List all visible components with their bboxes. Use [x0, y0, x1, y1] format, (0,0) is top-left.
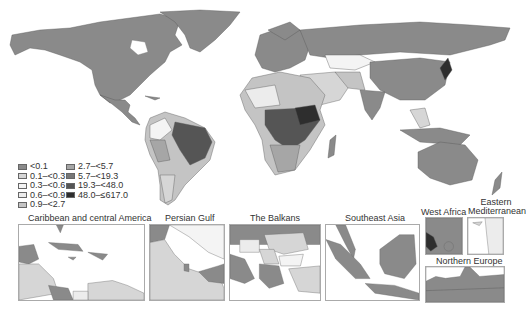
legend-swatch: [18, 173, 27, 179]
inset-title-caribbean: Caribbean and central America: [28, 213, 152, 223]
inset-persian-gulf: [149, 224, 225, 301]
inset-caribbean: [18, 224, 145, 301]
inset-title-northern-europe: Northern Europe: [436, 256, 503, 266]
legend-swatch: [66, 192, 75, 198]
legend-swatch: [18, 192, 27, 198]
inset-title-west-africa: West Africa: [421, 207, 466, 217]
legend-item: 48.0–≤617.0: [66, 191, 128, 201]
inset-southeast-asia: [325, 224, 420, 301]
legend-swatch: [66, 183, 75, 189]
inset-title-eastern-mediterranean: Eastern Mediterranean: [468, 198, 524, 216]
legend-swatch: [66, 164, 75, 170]
region-australia: [418, 142, 478, 185]
inset-title-southeast-asia: Southeast Asia: [345, 213, 405, 223]
legend-item: 0.9–<2.7: [18, 200, 65, 210]
legend-column-1: <0.1 0.1–<0.3 0.3–<0.6 0.6–<0.9 0.9–<2.7: [18, 162, 65, 210]
legend-swatch: [18, 183, 27, 189]
legend-swatch: [18, 202, 27, 208]
region-southeast-asia: [410, 108, 430, 128]
legend-label: 48.0–≤617.0: [78, 191, 128, 201]
legend-column-2: 2.7–<5.7 5.7–<19.3 19.3–<48.0 48.0–≤617.…: [66, 162, 128, 200]
inset-title-persian-gulf: Persian Gulf: [165, 213, 215, 223]
inset-eastern-mediterranean: [467, 217, 504, 255]
region-north-america: [10, 14, 182, 103]
region-kazakhstan: [325, 55, 375, 70]
inset-west-africa: [425, 217, 463, 255]
inset-northern-europe: [425, 266, 505, 303]
legend-swatch: [66, 173, 75, 179]
legend-label: 0.9–<2.7: [30, 200, 65, 210]
legend-swatch: [18, 164, 27, 170]
inset-balkans: [229, 224, 321, 301]
region-russia: [300, 22, 510, 58]
inset-title-balkans: The Balkans: [250, 213, 300, 223]
region-india: [360, 90, 385, 120]
